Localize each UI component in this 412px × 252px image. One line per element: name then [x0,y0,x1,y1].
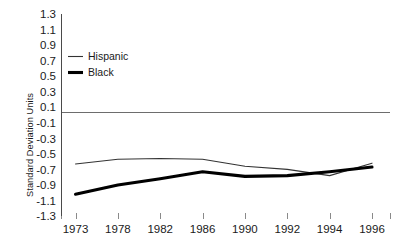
legend-label-black: Black [88,66,114,78]
y-axis-tick-labels: 1.31.10.90.70.50.30.1-0.1-0.3-0.5-0.7-0.… [36,8,56,222]
y-tick-label: -0.1 [36,117,56,129]
y-tick-label: -1.3 [36,210,56,222]
x-tick-label: 1982 [147,223,173,235]
x-tick-label: 1992 [275,223,301,235]
y-axis-title: Standard Deviation Units [25,93,35,197]
y-axis-title-group: Standard Deviation Units [25,93,35,197]
chart-legend: Hispanic Black [68,50,128,78]
y-tick-label: 0.5 [40,70,56,82]
y-tick-label: 1.3 [40,8,56,20]
line-chart-container: Standard Deviation Units 1.31.10.90.70.5… [0,0,412,252]
series-line-black [76,167,373,194]
y-tick-label: 1.1 [40,24,56,36]
x-tick-label: 1986 [190,223,216,235]
y-tick-label: -0.7 [36,164,56,176]
legend-label-hispanic: Hispanic [88,50,128,62]
x-tick-label: 1978 [105,223,131,235]
y-tick-label: 0.1 [40,101,56,113]
x-axis-tick-marks [62,213,391,219]
y-tick-label: 0.9 [40,39,56,51]
x-tick-label: 1996 [359,223,385,235]
y-tick-label: -0.9 [36,179,56,191]
y-tick-label: 0.7 [40,55,56,67]
x-tick-label: 1990 [232,223,258,235]
x-tick-label: 1994 [317,223,343,235]
x-tick-label: 1973 [63,223,89,235]
y-tick-label: -1.1 [36,195,56,207]
chart-canvas: Standard Deviation Units 1.31.10.90.70.5… [0,0,412,252]
y-tick-label: 0.3 [40,86,56,98]
y-tick-label: -0.3 [36,133,56,145]
x-axis-tick-labels: 19731978198219861990199219941996 [63,223,385,235]
y-tick-label: -0.5 [36,148,56,160]
